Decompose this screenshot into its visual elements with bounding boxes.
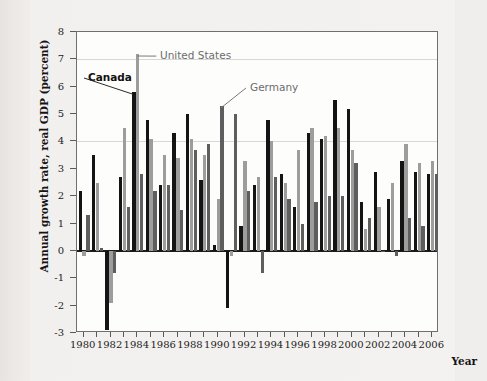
y-tick-label: 2 (58, 190, 64, 201)
bar-de-1986 (167, 185, 170, 251)
y-tick-label: 4 (58, 135, 64, 146)
bar-ca-1988 (186, 114, 189, 251)
bar-de-2003 (395, 251, 398, 256)
x-tick-label: 1992 (231, 339, 256, 350)
x-tick (431, 332, 432, 337)
bar-de-1987 (180, 210, 183, 251)
bar-ca-1981 (92, 155, 95, 251)
bar-ca-2005 (414, 172, 417, 251)
bar-ca-1990 (213, 245, 216, 250)
x-tick-label: 2006 (419, 339, 444, 350)
x-tick (123, 332, 124, 337)
x-tick (110, 332, 111, 337)
x-tick (163, 332, 164, 337)
bar-de-1980 (86, 215, 89, 251)
bar-us-1981 (96, 183, 99, 251)
x-tick-label: 1996 (284, 339, 309, 350)
bar-ca-1983 (119, 177, 122, 251)
bar-de-2001 (368, 218, 371, 251)
x-tick (270, 332, 271, 337)
bar-ca-1987 (172, 133, 175, 251)
x-tick-label: 2002 (365, 339, 390, 350)
bar-us-2004 (404, 144, 407, 251)
x-tick (96, 332, 97, 337)
bar-de-1994 (274, 177, 277, 251)
y-tick-label: 1 (58, 217, 64, 228)
annotation-label-germany: Germany (250, 81, 298, 93)
annotation-label-united-states: United States (160, 49, 231, 61)
x-tick-label: 1994 (258, 339, 283, 350)
x-tick (203, 332, 204, 337)
bar-us-1991 (230, 251, 233, 256)
bar-us-2001 (364, 229, 367, 251)
bar-us-1983 (123, 128, 126, 251)
bar-ca-1999 (333, 100, 336, 251)
bar-de-2000 (354, 163, 357, 251)
x-tick (337, 332, 338, 337)
y-tick-label: -2 (54, 299, 64, 310)
bar-us-1992 (243, 161, 246, 251)
bar-us-1982 (109, 251, 112, 303)
bar-de-1985 (153, 191, 156, 251)
bar-de-1989 (207, 144, 210, 251)
x-tick (257, 332, 258, 337)
x-tick (83, 332, 84, 337)
x-tick-label: 1998 (311, 339, 336, 350)
x-axis: 1980198219841986198819901992199419961998… (76, 332, 438, 362)
bar-us-1985 (149, 139, 152, 251)
bar-ca-2004 (400, 161, 403, 251)
y-tick-label: 8 (58, 26, 64, 37)
y-tick-label: -1 (54, 272, 64, 283)
y-tick-label: 6 (58, 80, 64, 91)
bar-us-1993 (257, 177, 260, 251)
bar-ca-2006 (427, 174, 430, 251)
bar-ca-1985 (146, 120, 149, 251)
gridline (77, 59, 437, 60)
figure-page: 876543210-1-2-3 Annual growth rate, real… (0, 0, 487, 381)
x-tick-label: 1982 (97, 339, 122, 350)
y-axis-title: Annual growth rate, real GDP (percent) (38, 16, 50, 296)
y-tick-label: -3 (54, 327, 64, 338)
annotation-label-canada: Canada (88, 71, 132, 83)
x-tick (364, 332, 365, 337)
bar-ca-1995 (280, 174, 283, 251)
x-tick (150, 332, 151, 337)
bar-de-2004 (408, 218, 411, 251)
bar-ca-1982 (105, 251, 108, 330)
x-tick (244, 332, 245, 337)
bar-ca-1986 (159, 185, 162, 251)
bar-de-1993 (261, 251, 264, 273)
bar-ca-2003 (387, 199, 390, 251)
bar-ca-1997 (307, 133, 310, 251)
gdp-growth-chart: 876543210-1-2-3 Annual growth rate, real… (0, 0, 487, 381)
bar-de-1999 (341, 196, 344, 251)
bar-de-1982 (113, 251, 116, 273)
bar-ca-1991 (226, 251, 229, 308)
bar-ca-1992 (239, 226, 242, 251)
bar-ca-2001 (360, 202, 363, 251)
bar-us-2000 (351, 150, 354, 251)
bar-ca-2000 (347, 109, 350, 251)
x-tick-label: 1988 (177, 339, 202, 350)
bar-us-1987 (176, 158, 179, 251)
bar-us-2002 (377, 207, 380, 251)
x-axis-title: Year (451, 355, 477, 367)
bar-de-1988 (194, 150, 197, 251)
y-tick-label: 0 (58, 244, 64, 255)
y-tick-label: 7 (58, 53, 64, 64)
bar-de-2006 (435, 174, 438, 251)
bar-us-1998 (324, 136, 327, 251)
bar-us-2003 (391, 183, 394, 251)
x-tick-label: 1986 (150, 339, 175, 350)
bar-ca-1994 (266, 120, 269, 251)
gridline (77, 141, 437, 142)
y-tick-label: 3 (58, 162, 64, 173)
bar-us-1984 (136, 54, 139, 251)
bar-us-1989 (203, 155, 206, 251)
x-tick (297, 332, 298, 337)
x-tick (324, 332, 325, 337)
bar-us-1986 (163, 155, 166, 251)
bar-de-1992 (247, 191, 250, 251)
bar-ca-1996 (293, 207, 296, 251)
bar-ca-1984 (132, 92, 135, 251)
